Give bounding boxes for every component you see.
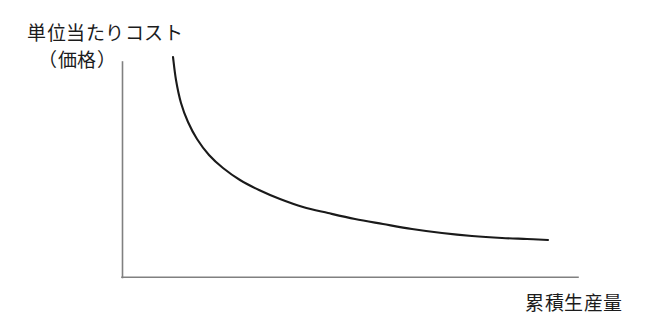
x-axis-label: 累積生産量 <box>525 292 623 316</box>
learning-curve-figure: 単位当たりコスト （価格） 累積生産量 <box>0 0 655 329</box>
unit-cost-curve <box>173 57 548 240</box>
y-axis-label-secondary: （価格） <box>38 49 116 73</box>
y-axis-label-primary: 単位当たりコスト <box>27 22 183 46</box>
